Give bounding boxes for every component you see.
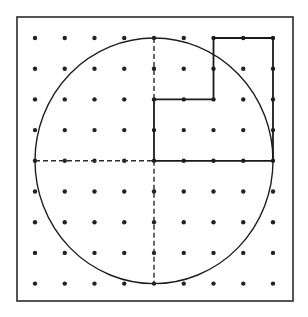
grid-dot — [33, 189, 37, 193]
grid-dot — [211, 128, 215, 132]
grid-dot — [63, 281, 67, 285]
grid-dot — [241, 251, 245, 255]
grid-dot — [33, 251, 37, 255]
grid-dot — [33, 281, 37, 285]
grid-dot — [182, 251, 186, 255]
grid-dot — [92, 189, 96, 193]
grid-dot — [92, 220, 96, 224]
grid-dot — [241, 67, 245, 71]
grid-dot — [122, 36, 126, 40]
grid-dot — [122, 128, 126, 132]
grid-dot — [33, 97, 37, 101]
grid-dot — [241, 281, 245, 285]
grid-dot — [241, 128, 245, 132]
grid-dot — [122, 251, 126, 255]
grid-dot — [211, 281, 215, 285]
grid-dot — [33, 67, 37, 71]
grid-dot — [182, 220, 186, 224]
grid-dot — [63, 251, 67, 255]
grid-dot — [122, 189, 126, 193]
grid-dot — [92, 128, 96, 132]
grid-dot — [63, 220, 67, 224]
grid-dot — [211, 189, 215, 193]
grid-dot — [271, 251, 275, 255]
grid-dot — [92, 251, 96, 255]
grid-dot — [241, 97, 245, 101]
grid-dot — [63, 128, 67, 132]
grid-dot — [92, 97, 96, 101]
dashed-diameters — [35, 38, 154, 284]
grid-dot — [63, 36, 67, 40]
grid-dot — [122, 281, 126, 285]
geoboard-figure — [0, 0, 308, 317]
grid-dot — [122, 67, 126, 71]
grid-dot — [92, 281, 96, 285]
grid-dot — [211, 220, 215, 224]
grid-dot — [33, 220, 37, 224]
grid-dot — [63, 67, 67, 71]
grid-dot — [122, 220, 126, 224]
solid-rectilinear-shape — [154, 38, 273, 161]
grid-dot — [182, 281, 186, 285]
grid-dot — [122, 97, 126, 101]
grid-dot — [33, 36, 37, 40]
grid-dot — [92, 36, 96, 40]
grid-dot — [182, 189, 186, 193]
grid-dot — [33, 128, 37, 132]
grid-dot — [211, 251, 215, 255]
grid-dot — [182, 128, 186, 132]
grid-dot — [182, 36, 186, 40]
grid-dot — [241, 220, 245, 224]
grid-dot — [271, 220, 275, 224]
grid-dot — [182, 67, 186, 71]
grid-dot — [63, 97, 67, 101]
grid-dot — [63, 189, 67, 193]
grid-dot — [271, 281, 275, 285]
grid-dot — [241, 189, 245, 193]
grid-dot — [271, 189, 275, 193]
grid-dot — [92, 67, 96, 71]
